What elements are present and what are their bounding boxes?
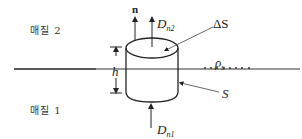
d-n2-symbol: D xyxy=(157,16,166,31)
height-label: h xyxy=(112,65,119,78)
diagram-graphics xyxy=(0,0,302,139)
d-n2-subscript: n2 xyxy=(166,24,174,33)
surface-s-label: S xyxy=(222,87,229,100)
rho-subscript: s xyxy=(221,63,224,72)
d-n1-subscript: n1 xyxy=(166,130,174,139)
surface-s-leader xyxy=(181,83,219,92)
medium-1-label: 매질 1 xyxy=(30,106,62,116)
delta-s-text: ΔS xyxy=(213,16,229,31)
d-n2-label: Dn2 xyxy=(157,17,174,33)
normal-vector-label: n xyxy=(132,4,138,15)
surface-charge-label: ρs xyxy=(215,56,224,72)
d-n1-label: Dn1 xyxy=(157,123,174,139)
d-n1-symbol: D xyxy=(157,122,166,137)
cylinder-bottom-arc xyxy=(126,92,178,102)
boundary-condition-diagram: 매질 2 매질 1 n Dn2 ΔS h ρs S Dn1 xyxy=(0,0,302,139)
medium-2-label: 매질 2 xyxy=(30,26,62,36)
delta-s-label: ΔS xyxy=(213,17,229,30)
